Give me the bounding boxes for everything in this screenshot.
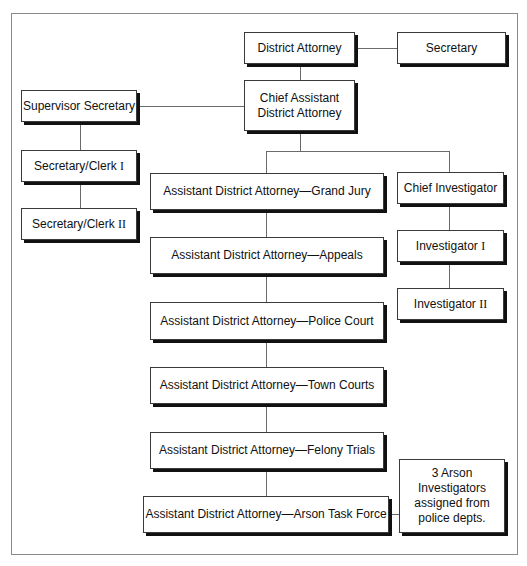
node-investigator-2: Investigator II [397, 288, 504, 320]
node-ada-arson-task-force: Assistant District Attorney—Arson Task F… [143, 496, 389, 533]
node-label-line1: 3 Arson [432, 466, 473, 481]
connector-arson-task-force-investigators [389, 514, 399, 515]
node-ada-town-courts: Assistant District Attorney—Town Courts [150, 367, 384, 404]
node-label: District Attorney [257, 41, 341, 56]
connector-bus-grand-jury [266, 151, 267, 173]
node-label: Chief Investigator [404, 181, 497, 196]
node-label-line2: District Attorney [257, 106, 341, 121]
node-district-attorney: District Attorney [244, 32, 355, 64]
node-label: Supervisor Secretary [23, 99, 135, 114]
node-label-line2: Investigators [418, 481, 486, 496]
node-label: Secretary [426, 41, 477, 56]
node-secretary-clerk-2: Secretary/Clerk II [21, 208, 137, 240]
node-chief-assistant-district-attorney: Chief Assistant District Attorney [244, 80, 355, 131]
node-label-line3: assigned from [414, 496, 489, 511]
node-ada-grand-jury: Assistant District Attorney—Grand Jury [150, 173, 384, 210]
node-label: Assistant District Attorney—Police Court [160, 314, 373, 329]
connector-supervisor-clerk1 [80, 122, 81, 150]
connector-chief-assistant-supervisor-secretary [137, 106, 244, 107]
node-ada-police-court: Assistant District Attorney—Police Court [150, 302, 384, 340]
node-secretary-clerk-1: Secretary/Clerk I [21, 150, 137, 182]
node-arson-investigators: 3 Arson Investigators assigned from poli… [399, 459, 505, 533]
node-label: Assistant District Attorney—Appeals [171, 248, 362, 263]
node-label: Secretary/Clerk [34, 159, 117, 174]
node-investigator-1: Investigator I [397, 230, 504, 262]
node-chief-investigator: Chief Investigator [397, 172, 504, 204]
connector-bus-chief-investigator [449, 151, 450, 172]
node-roman-numeral: II [118, 217, 126, 232]
node-label: Investigator [416, 239, 478, 254]
node-roman-numeral: II [479, 297, 487, 312]
connector-da-secretary [355, 48, 397, 49]
node-label: Secretary/Clerk [32, 217, 115, 232]
node-ada-appeals: Assistant District Attorney—Appeals [150, 237, 384, 274]
node-ada-felony-trials: Assistant District Attorney—Felony Trial… [150, 432, 384, 469]
node-supervisor-secretary: Supervisor Secretary [21, 90, 137, 122]
node-label: Investigator [414, 297, 476, 312]
node-label: Assistant District Attorney—Felony Trial… [159, 443, 375, 458]
node-label: Assistant District Attorney—Arson Task F… [145, 507, 386, 522]
node-label: Assistant District Attorney—Grand Jury [163, 184, 370, 199]
node-roman-numeral: I [120, 159, 124, 174]
connector-bus [266, 151, 450, 152]
connector-chief-assistant-bus [300, 131, 301, 152]
node-label-line1: Chief Assistant [260, 91, 339, 106]
node-label: Assistant District Attorney—Town Courts [160, 378, 375, 393]
connector-clerk1-clerk2 [80, 182, 81, 208]
node-roman-numeral: I [481, 239, 485, 254]
node-label-line4: police depts. [418, 511, 485, 526]
connector-da-chief-assistant [300, 64, 301, 80]
node-secretary: Secretary [397, 32, 506, 64]
